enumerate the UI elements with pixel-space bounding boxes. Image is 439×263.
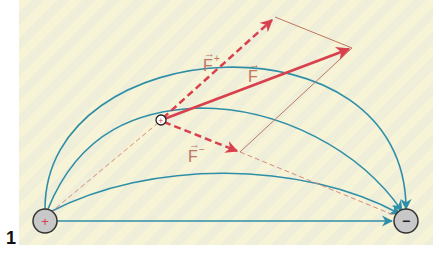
construction-lines bbox=[50, 17, 396, 216]
field-line-middle bbox=[50, 173, 400, 214]
field-line-upper bbox=[48, 108, 402, 211]
force-vectors bbox=[163, 20, 349, 151]
sink-negative-charge: − bbox=[394, 209, 418, 233]
label-f-plus: F bbox=[203, 57, 213, 74]
plus-sign-icon: + bbox=[41, 214, 49, 229]
test-charge: + bbox=[156, 115, 166, 126]
label-f-minus: F bbox=[188, 148, 198, 165]
source-positive-charge: + bbox=[33, 209, 57, 233]
label-f-total: F bbox=[248, 68, 258, 85]
label-f-total-arrow: → bbox=[249, 58, 260, 70]
label-f-plus-sup: + bbox=[214, 53, 220, 64]
test-charge-plus-icon: + bbox=[158, 116, 163, 126]
label-f-minus-sup: − bbox=[199, 144, 205, 155]
field-diagram: F → + F → F → − + − + bbox=[0, 0, 439, 263]
dashed-line-to-sink bbox=[240, 152, 396, 216]
minus-sign-icon: − bbox=[402, 213, 410, 229]
